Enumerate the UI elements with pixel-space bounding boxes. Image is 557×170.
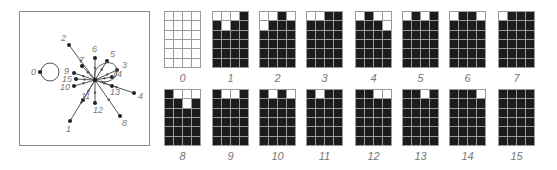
grid-cell	[403, 127, 411, 135]
grid-state-14: 14	[449, 89, 486, 146]
grid-cell	[517, 59, 525, 67]
state-label: 3	[122, 60, 127, 70]
grid-cell	[450, 59, 458, 67]
grid-cell	[477, 49, 485, 57]
grid-cell	[356, 137, 364, 145]
grid-cell	[174, 127, 182, 135]
grid-cell	[240, 127, 248, 135]
grid-cell	[278, 21, 286, 29]
grid-cell	[468, 40, 476, 48]
grid-cell	[356, 90, 364, 98]
grid-label: 7	[498, 72, 535, 84]
grid-cell	[450, 31, 458, 39]
grid-cell	[334, 49, 342, 57]
grid-cell	[383, 109, 391, 117]
grid-cell	[316, 40, 324, 48]
grid-cell	[240, 99, 248, 107]
cell-grid	[355, 11, 392, 68]
grid-cell	[325, 21, 333, 29]
grid-cell	[316, 118, 324, 126]
grid-cell	[517, 21, 525, 29]
grid-cell	[192, 118, 200, 126]
grid-cell	[403, 59, 411, 67]
grid-cell	[365, 118, 373, 126]
grid-cell	[287, 40, 295, 48]
grid-cell	[287, 99, 295, 107]
grid-cell	[192, 99, 200, 107]
grid-cell	[231, 49, 239, 57]
grid-cell	[477, 40, 485, 48]
state-node	[72, 71, 76, 75]
grid-cell	[260, 31, 268, 39]
grid-cell	[260, 118, 268, 126]
grid-cell	[477, 31, 485, 39]
grid-cell	[325, 118, 333, 126]
grid-cell	[240, 49, 248, 57]
grid-cell	[508, 40, 516, 48]
grid-cell	[260, 137, 268, 145]
grid-cell	[499, 118, 507, 126]
grid-cell	[383, 99, 391, 107]
grid-cell	[334, 31, 342, 39]
cell-grid	[306, 11, 343, 68]
grid-cell	[430, 118, 438, 126]
cell-grid	[402, 89, 439, 146]
grid-cell	[269, 99, 277, 107]
grid-cell	[183, 21, 191, 29]
grid-cell	[517, 99, 525, 107]
grid-cell	[174, 40, 182, 48]
grid-state-15: 15	[498, 89, 535, 146]
grid-cell	[365, 59, 373, 67]
grid-cell	[307, 90, 315, 98]
grid-label: 4	[355, 72, 392, 84]
grid-cell	[269, 12, 277, 20]
grid-cell	[412, 21, 420, 29]
grid-cell	[421, 118, 429, 126]
grid-cell	[459, 31, 467, 39]
grid-cell	[174, 59, 182, 67]
grid-cell	[499, 49, 507, 57]
grid-cell	[325, 109, 333, 117]
grid-cell	[287, 49, 295, 57]
grid-cell	[231, 118, 239, 126]
grid-cell	[526, 137, 534, 145]
grid-cell	[287, 21, 295, 29]
grid-cell	[468, 12, 476, 20]
grid-cell	[325, 90, 333, 98]
grid-cell	[174, 109, 182, 117]
grid-cell	[508, 12, 516, 20]
grid-cell	[213, 99, 221, 107]
grid-cell	[231, 40, 239, 48]
grid-label: 10	[259, 150, 296, 162]
grid-cell	[287, 118, 295, 126]
grid-cell	[412, 59, 420, 67]
grid-cell	[260, 21, 268, 29]
state-label: 8	[122, 118, 127, 128]
grid-cell	[183, 127, 191, 135]
grid-cell	[526, 40, 534, 48]
grid-cell	[412, 40, 420, 48]
grid-cell	[459, 21, 467, 29]
grid-cell	[307, 12, 315, 20]
grid-label: 12	[355, 150, 392, 162]
grid-cell	[165, 127, 173, 135]
grid-cell	[260, 127, 268, 135]
grid-cell	[459, 109, 467, 117]
grid-cell	[412, 109, 420, 117]
grid-cell	[508, 109, 516, 117]
grid-cell	[374, 49, 382, 57]
grid-cell	[316, 21, 324, 29]
grid-cell	[222, 59, 230, 67]
grid-cell	[508, 127, 516, 135]
grid-cell	[412, 49, 420, 57]
grid-state-11: 11	[306, 89, 343, 146]
grid-cell	[316, 109, 324, 117]
grid-cell	[356, 127, 364, 135]
grid-cell	[459, 40, 467, 48]
grid-cell	[468, 90, 476, 98]
grid-cell	[508, 137, 516, 145]
grid-cell	[213, 127, 221, 135]
grid-cell	[222, 12, 230, 20]
grid-cell	[174, 49, 182, 57]
grid-cell	[477, 109, 485, 117]
